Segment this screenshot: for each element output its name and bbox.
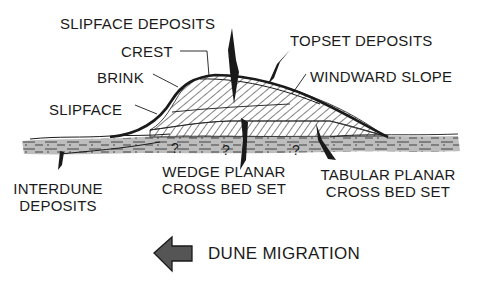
uncertain-mark: ? xyxy=(292,142,300,159)
interdune-deposits-label: INTERDUNE DEPOSITS xyxy=(6,180,110,214)
uncertain-mark: ? xyxy=(171,140,179,157)
wedge-planar-label: WEDGE PLANAR CROSS BED SET xyxy=(144,163,304,197)
dune-diagram: ? ? ? ? SLIPFACE DEPOSITS CREST TOPSET D… xyxy=(0,0,482,293)
topset-deposits-label: TOPSET DEPOSITS xyxy=(290,32,432,49)
windward-slope-label: WINDWARD SLOPE xyxy=(310,68,452,85)
wedge-planar-line2: CROSS BED SET xyxy=(144,180,304,197)
wedge-planar-line1: WEDGE PLANAR xyxy=(144,163,304,180)
interdune-layer xyxy=(22,134,460,154)
brink-label: BRINK xyxy=(97,69,144,86)
crest-label: CREST xyxy=(121,43,173,60)
slipface-deposits-label: SLIPFACE DEPOSITS xyxy=(60,15,215,32)
interdune-line1: INTERDUNE xyxy=(6,180,110,197)
migration-arrow-icon xyxy=(154,237,192,271)
slipface-label: SLIPFACE xyxy=(49,101,122,118)
dune-migration-label: DUNE MIGRATION xyxy=(208,245,360,262)
tabular-planar-label: TABULAR PLANAR CROSS BED SET xyxy=(308,166,468,200)
uncertain-mark: ? xyxy=(222,142,230,159)
topset-deposits-arrow xyxy=(268,50,290,84)
tabular-planar-line2: CROSS BED SET xyxy=(308,183,468,200)
interdune-line2: DEPOSITS xyxy=(6,197,110,214)
tabular-planar-line1: TABULAR PLANAR xyxy=(308,166,468,183)
